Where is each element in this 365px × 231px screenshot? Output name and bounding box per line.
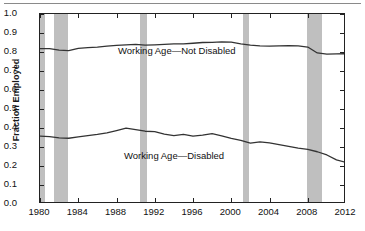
y-axis-tick-label: 0.6: [0, 83, 17, 94]
series-annotation-not-disabled: Working Age—Not Disabled: [118, 45, 236, 56]
y-axis-tick: [340, 147, 344, 148]
y-axis-tick-label: 0.0: [0, 197, 17, 208]
y-axis-tick-label: 0.3: [0, 140, 17, 151]
chart-figure: Fraction Employed 0.00.10.20.30.40.50.60…: [0, 0, 365, 231]
x-axis-tick: [193, 14, 194, 18]
x-axis-tick-label: 1980: [19, 206, 59, 217]
y-axis-tick: [340, 14, 344, 15]
x-axis-tick-label: 1988: [96, 206, 136, 217]
y-axis-tick-label: 0.1: [0, 178, 17, 189]
x-axis-tick: [270, 198, 271, 202]
x-axis-tick: [40, 198, 41, 202]
x-axis-tick-label: 2004: [249, 206, 289, 217]
y-axis-tick: [340, 33, 344, 34]
y-axis-tick: [40, 90, 44, 91]
x-axis-tick: [231, 14, 232, 18]
x-axis-tick: [117, 198, 118, 202]
x-axis-tick-label: 1992: [134, 206, 174, 217]
y-axis-tick: [40, 147, 44, 148]
x-axis-tick: [155, 14, 156, 18]
y-axis-tick: [340, 71, 344, 72]
y-axis-tick: [340, 90, 344, 91]
x-axis-tick-label: 2000: [210, 206, 250, 217]
y-axis-tick-label: 0.4: [0, 121, 17, 132]
x-axis-tick: [117, 14, 118, 18]
y-axis-tick: [40, 52, 44, 53]
y-axis-tick: [340, 166, 344, 167]
y-axis-tick: [340, 185, 344, 186]
y-axis-tick: [40, 185, 44, 186]
x-axis-tick: [308, 14, 309, 18]
x-axis-tick: [40, 14, 41, 18]
x-axis-tick: [308, 198, 309, 202]
y-axis-tick-label: 0.5: [0, 102, 17, 113]
x-axis-tick: [78, 198, 79, 202]
x-axis-tick: [231, 198, 232, 202]
y-axis-tick-label: 1.0: [0, 7, 17, 18]
plot-area: [39, 13, 345, 203]
x-axis-tick-label: 1996: [172, 206, 212, 217]
header-rule: [4, 3, 361, 4]
y-axis-tick: [40, 71, 44, 72]
y-axis-tick: [40, 128, 44, 129]
x-axis-tick: [155, 198, 156, 202]
y-axis-tick: [40, 109, 44, 110]
y-axis-tick: [340, 128, 344, 129]
y-axis-tick-label: 0.2: [0, 159, 17, 170]
x-axis-tick-label: 2012: [325, 206, 365, 217]
series-lines: [40, 14, 345, 203]
y-axis-tick: [340, 109, 344, 110]
series-annotation-disabled: Working Age—Disabled: [124, 150, 224, 161]
x-axis-tick-label: 1984: [57, 206, 97, 217]
y-axis-tick-label: 0.7: [0, 64, 17, 75]
x-axis-tick-label: 2008: [287, 206, 327, 217]
y-axis-tick: [340, 52, 344, 53]
y-axis-tick-label: 0.8: [0, 45, 17, 56]
x-axis-tick: [193, 198, 194, 202]
y-axis-tick: [40, 166, 44, 167]
y-axis-tick: [40, 33, 44, 34]
y-axis-tick-label: 0.9: [0, 26, 17, 37]
x-axis-tick: [78, 14, 79, 18]
x-axis-tick: [270, 14, 271, 18]
